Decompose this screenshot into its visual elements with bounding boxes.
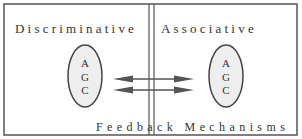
left-letter-g: G — [81, 71, 89, 83]
left-letter-a: A — [81, 57, 89, 69]
feedback-mechanisms-label: Feedback Mechanisms — [96, 120, 289, 134]
left-letter-c: C — [81, 84, 88, 96]
right-panel-title: Associative — [161, 21, 257, 36]
left-agc-ellipse: A G C — [68, 45, 102, 107]
left-panel-title: Discriminative — [15, 21, 137, 36]
right-letter-a: A — [222, 57, 230, 69]
right-agc-ellipse: A G C — [209, 45, 243, 107]
diagram-canvas: Discriminative Associative A G C A G C F… — [0, 0, 302, 139]
right-letter-g: G — [222, 71, 230, 83]
right-letter-c: C — [222, 84, 229, 96]
